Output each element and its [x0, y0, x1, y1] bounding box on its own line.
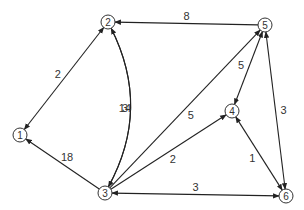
node-5: 5: [258, 18, 272, 32]
graph-diagram: 2814318525313 123456: [0, 0, 304, 210]
node-label: 3: [102, 188, 108, 199]
node-label: 1: [17, 130, 23, 141]
edge-weight-label: 3: [280, 104, 286, 116]
edge-4-6: [236, 117, 282, 190]
node-label: 2: [105, 17, 111, 28]
edge-5-2: [115, 22, 258, 25]
edge-weight-label: 5: [188, 109, 194, 121]
edge-weight-label: 3: [122, 102, 128, 114]
edge-weight-label: 3: [193, 181, 199, 193]
node-label: 4: [229, 106, 235, 117]
node-2: 2: [101, 15, 115, 29]
edge-weight-label: 8: [184, 10, 190, 22]
edge-weight-label: 2: [55, 68, 61, 80]
node-label: 5: [262, 20, 268, 31]
edge-3-1: [26, 139, 99, 189]
edge-6-3: [112, 193, 279, 196]
edge-weight-label: 1: [249, 152, 255, 164]
node-label: 6: [283, 191, 289, 202]
node-3: 3: [98, 186, 112, 200]
node-6: 6: [279, 189, 293, 203]
edge-weight-label: 5: [238, 59, 244, 71]
node-4: 4: [225, 104, 239, 118]
edge-2-1: [24, 28, 103, 130]
node-1: 1: [13, 128, 27, 142]
graph-canvas: 2814318525313 123456: [0, 0, 304, 210]
edge-weight-label: 2: [170, 153, 176, 165]
edge-weight-label: 18: [61, 151, 73, 163]
